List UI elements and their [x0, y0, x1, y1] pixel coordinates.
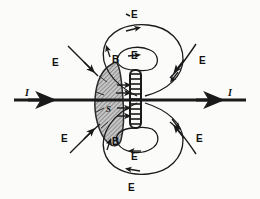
- field-diagram-figure: I I S B B E E E E E E E E: [0, 0, 260, 199]
- label-current-right: I: [228, 88, 232, 98]
- label-e-right-lower: E: [196, 134, 203, 144]
- label-e-left-upper: E: [52, 58, 59, 68]
- label-current-left: I: [25, 88, 29, 98]
- label-e-bottom-outer: E: [128, 183, 135, 193]
- field-diagram-svg: [0, 0, 260, 199]
- open-arc-top-right: [170, 44, 196, 78]
- label-surface-s: S: [106, 105, 111, 114]
- label-b-top: B: [112, 55, 119, 65]
- label-b-bottom: B: [112, 137, 119, 147]
- label-e-top-inner: E: [131, 51, 138, 61]
- label-e-bottom-inner: E: [131, 152, 138, 162]
- label-e-top-outer: E: [131, 10, 138, 20]
- stray-tick: [126, 14, 130, 16]
- open-arc-top-left: [68, 46, 98, 76]
- label-e-right-upper: E: [199, 56, 206, 66]
- label-e-left-lower: E: [61, 134, 68, 144]
- open-arc-bottom-left: [70, 124, 100, 153]
- inner-bottom-loop: [116, 127, 157, 152]
